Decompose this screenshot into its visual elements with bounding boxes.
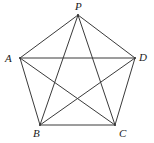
edge-ab: [20, 58, 40, 125]
edge-pc: [78, 15, 115, 125]
edge-layer: [20, 15, 135, 125]
edge-pa: [20, 15, 78, 58]
edge-bd: [40, 58, 135, 125]
vertex-label-a: A: [5, 53, 12, 64]
vertex-point-d: [134, 57, 136, 59]
vertex-label-p: P: [75, 1, 82, 12]
edge-pb: [40, 15, 78, 125]
vertex-point-c: [114, 124, 116, 126]
vertex-label-b: B: [33, 128, 40, 139]
pentagram-diagram: [0, 0, 154, 143]
vertex-point-b: [39, 124, 41, 126]
vertex-label-d: D: [139, 52, 147, 63]
vertex-point-a: [19, 57, 21, 59]
vertex-point-p: [77, 14, 79, 16]
pentagram-figure: PADBC: [0, 0, 154, 143]
vertex-label-c: C: [119, 128, 126, 139]
edge-dp: [78, 15, 135, 58]
edge-ac: [20, 58, 115, 125]
edge-cd: [115, 58, 135, 125]
